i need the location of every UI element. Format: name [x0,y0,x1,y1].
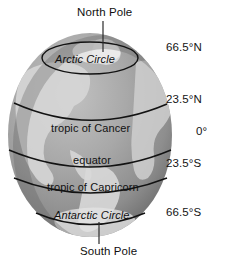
north-pole-label: North Pole [77,6,132,18]
latitude-label-tropic-of-capricorn: 23.5°S [166,157,201,169]
line-label-tropic-of-cancer: tropic of Cancer [51,122,130,134]
south-pole-label: South Pole [80,245,137,257]
line-label-tropic-of-capricorn: tropic of Capricorn [47,181,139,193]
line-label-arctic-circle: Arctic Circle [55,53,115,65]
latitude-label-arctic-circle: 66.5°N [166,41,202,53]
line-label-antarctic-circle: Antarctic Circle [54,209,130,221]
line-label-equator: equator [73,154,111,166]
latitude-label-tropic-of-cancer: 23.5°N [166,93,202,105]
latitude-label-equator: 0° [196,125,207,137]
latitude-label-antarctic-circle: 66.5°S [166,206,201,218]
globe-diagram: North Pole South Pole 66.5°N 23.5°N 0° 2… [0,0,240,262]
